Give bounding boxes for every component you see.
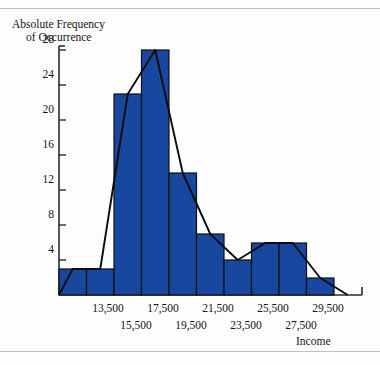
bar-23500 [224, 260, 252, 295]
histogram-plot [0, 0, 380, 365]
bar-19500 [169, 173, 197, 295]
bar-11500 [59, 269, 87, 295]
chart-page: Absolute Frequency of Occurrence Income … [0, 0, 380, 365]
histogram-bars [59, 50, 334, 295]
bar-29500 [307, 278, 335, 295]
bar-17500 [142, 50, 170, 295]
bar-15500 [114, 94, 142, 295]
y-axis-ticks [59, 50, 66, 260]
bar-25500 [252, 243, 280, 295]
bar-13500 [87, 269, 115, 295]
bar-27500 [279, 243, 307, 295]
